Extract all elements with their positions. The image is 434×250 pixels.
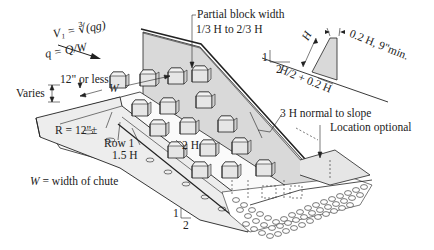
crest-height-label: 12" or less (60, 74, 109, 86)
partial-block-label: Partial block width (197, 9, 285, 21)
row-spacing-label: 1.5 H (112, 150, 138, 162)
legend-w-text: = width of chute (42, 175, 118, 187)
width-label: W (109, 83, 119, 95)
normal-distance-label: 3 H normal to slope (280, 108, 371, 120)
slope2-run-label: 2 (183, 220, 189, 232)
partial-block-range-label: 1/3 H to 2/3 H (196, 24, 262, 36)
slope-run-label: 2 (276, 64, 282, 76)
radius-label: R = 12"± (55, 125, 97, 137)
slope-rise-label: 1 (262, 52, 268, 64)
varies-label: Varies (16, 88, 45, 100)
flow-arrow (90, 53, 101, 59)
baffled-chute-diagram: V₁ = ∛(qg) q = Q/W 12" or less Varies W … (0, 0, 434, 250)
legend-width: W = width of chute (30, 176, 118, 188)
slope2-rise-label: 1 (173, 208, 179, 220)
legend-w-symbol: W (30, 175, 40, 187)
row1-label: Row 1 (104, 138, 134, 150)
block-spacing-label: 2 H (182, 140, 199, 152)
location-optional-label: Location optional (330, 122, 411, 134)
